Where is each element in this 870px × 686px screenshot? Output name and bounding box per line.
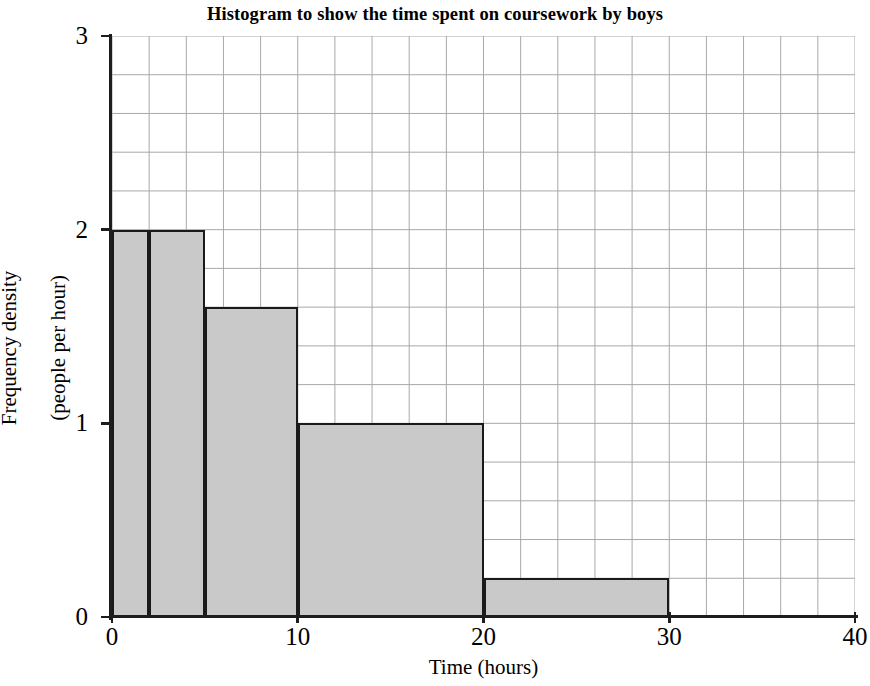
y-axis-tick — [101, 228, 112, 231]
histogram-bar — [298, 423, 484, 617]
x-axis-tick-label: 20 — [449, 624, 519, 649]
x-axis-tick-label: 10 — [263, 624, 333, 649]
histogram-figure: Histogram to show the time spent on cour… — [0, 0, 870, 686]
x-axis-tick — [854, 612, 857, 623]
chart-title: Histogram to show the time spent on cour… — [0, 4, 870, 25]
y-axis-tick-label: 3 — [48, 23, 88, 48]
histogram-bar — [205, 307, 298, 617]
y-axis-title: Frequency density (people per hour) — [0, 198, 96, 498]
x-axis-tick — [296, 612, 299, 623]
histogram-bar — [484, 578, 670, 617]
y-axis-line — [109, 34, 112, 620]
x-axis-title: Time (hours) — [112, 655, 855, 680]
x-axis-tick-label: 40 — [820, 624, 870, 649]
histogram-bar — [149, 230, 205, 617]
x-axis-tick — [111, 612, 114, 623]
x-axis-tick-label: 0 — [77, 624, 147, 649]
y-axis-tick — [101, 422, 112, 425]
y-axis-title-line-1: Frequency density — [0, 198, 22, 498]
histogram-bars — [112, 36, 855, 617]
x-axis-tick — [482, 612, 485, 623]
y-axis-title-line-2: (people per hour) — [46, 198, 71, 498]
y-axis-tick — [101, 35, 112, 38]
x-axis-tick-label: 30 — [634, 624, 704, 649]
x-axis-tick — [668, 612, 671, 623]
plot-area — [112, 36, 855, 617]
histogram-bar — [112, 230, 149, 617]
